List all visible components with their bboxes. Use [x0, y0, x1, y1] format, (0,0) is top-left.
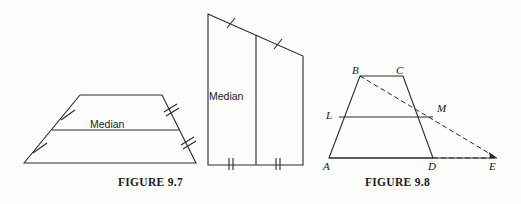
vertex-label-m: M	[437, 102, 446, 114]
vertex-label-c: C	[396, 64, 403, 76]
median-text-label-rotated: Median	[209, 90, 243, 102]
tick-left-lower	[33, 143, 47, 153]
vertex-label-b: B	[352, 64, 359, 76]
median-text-label-upright: Median	[90, 118, 124, 130]
vertex-label-a: A	[323, 160, 330, 172]
figure-page: FIGURE 9.7 FIGURE 9.8 Median Median A B …	[0, 0, 521, 204]
figure-caption-9-7: FIGURE 9.7	[118, 176, 183, 188]
figure-caption-9-8: FIGURE 9.8	[365, 176, 430, 188]
figure-9-8-trapezoid-abcd	[329, 76, 497, 158]
vertex-label-e: E	[489, 160, 496, 172]
vertex-label-d: D	[428, 160, 436, 172]
vertex-label-l: L	[326, 109, 332, 121]
arrowhead-e	[489, 152, 497, 158]
